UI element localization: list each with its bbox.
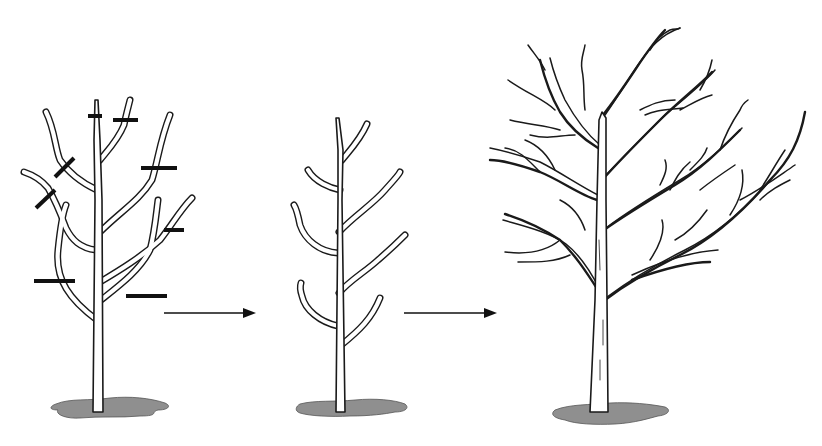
arrow-right-icon: to stage 2: [164, 308, 256, 318]
ground-patch: [553, 403, 669, 425]
ground-patch: [296, 399, 407, 416]
stage-3-tree: Mature tree with developed canopy: [490, 28, 805, 424]
tree-pruning-diagram: Young tree with pruning cuts marked: [0, 0, 822, 446]
stage-1-tree: Young tree with pruning cuts marked: [24, 100, 192, 418]
ground-patch: [51, 397, 169, 418]
trunk: [590, 112, 608, 412]
trunk: [93, 100, 103, 412]
stage-2-tree: Pruned young tree (scaffold branches): [294, 118, 407, 416]
arrow-right-icon: to stage 3: [404, 308, 497, 318]
